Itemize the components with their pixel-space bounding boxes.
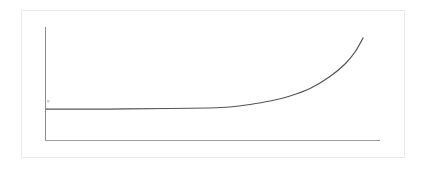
figure-root: Exponential growth curve on plain x and … [0,0,425,172]
y-axis-tick-mark [47,100,50,103]
plot-area [0,0,425,172]
exponential-curve [46,38,363,109]
